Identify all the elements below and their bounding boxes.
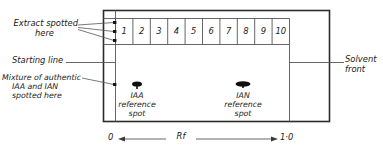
lane-number-10: 10 <box>272 27 289 35</box>
mixture-label: Mixture of authentic IAA and IAN spotted… <box>2 73 81 101</box>
rf-axis-arrow-right <box>271 137 278 142</box>
ian-reference-spot-label-line2: reference <box>218 100 268 109</box>
ian-reference-spot-label: IAN reference spot <box>218 91 268 119</box>
rf-axis-name-label: Rf <box>167 132 195 142</box>
rf-axis-arrow-left <box>118 137 125 142</box>
lane-number-7: 7 <box>220 27 237 35</box>
rf-axis-end-label: 1·0 <box>280 133 293 143</box>
iaa-reference-spot-label-line1: IAA <box>112 91 162 100</box>
mixture-leader <box>82 78 114 85</box>
extract-spotted-label-line2: here <box>0 29 78 39</box>
lane-number-2: 2 <box>133 27 150 35</box>
ian-reference-spot-label-line3: spot <box>218 109 268 118</box>
ian-reference-spot-label-line1: IAN <box>218 91 268 100</box>
mixture-label-line1: Mixture of authentic <box>2 73 81 82</box>
rf-axis-start-label: 0 <box>108 133 113 143</box>
lane-number-9: 9 <box>255 27 272 35</box>
extract-spotted-label: Extract spotted here <box>0 19 78 39</box>
iaa-reference-spot-label-line3: spot <box>112 109 162 118</box>
tlc-chromatogram-figure: 1 2 3 4 5 6 7 8 9 10 Extract spotted her… <box>0 0 383 153</box>
lane-number-6: 6 <box>203 27 220 35</box>
mixture-label-line2: IAA and IAN <box>2 82 81 91</box>
lane-number-4: 4 <box>168 27 185 35</box>
ian-reference-spot-mark <box>236 81 251 88</box>
lane-number-3: 3 <box>150 27 167 35</box>
iaa-reference-spot-mark <box>132 81 142 89</box>
mixture-label-line3: spotted here <box>2 91 81 100</box>
solvent-front-label: Solvent front <box>345 55 376 75</box>
lane-number-8: 8 <box>237 27 254 35</box>
iaa-reference-spot-label-line2: reference <box>112 100 162 109</box>
lane-number-1: 1 <box>116 27 133 35</box>
starting-line-label: Starting line <box>12 56 63 66</box>
extract-spotted-leaders <box>78 23 114 41</box>
solvent-front-label-line2: front <box>345 65 376 75</box>
iaa-reference-spot-label: IAA reference spot <box>112 91 162 119</box>
mixture-origin-mark <box>113 83 116 86</box>
lane-number-5: 5 <box>185 27 202 35</box>
